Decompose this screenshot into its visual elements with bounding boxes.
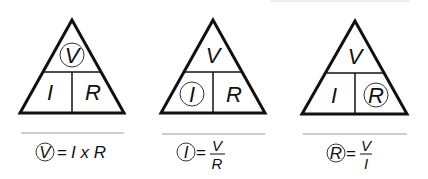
formula-equals: = bbox=[346, 144, 356, 163]
formula-rhs: I x R bbox=[71, 143, 106, 162]
triangle-solve-r: V I R R = V I bbox=[302, 21, 407, 172]
label-top: V bbox=[65, 43, 82, 68]
label-top: V bbox=[348, 44, 365, 69]
formula-denominator: R bbox=[212, 155, 223, 172]
label-top: V bbox=[206, 43, 223, 68]
label-bottom-left: I bbox=[47, 80, 53, 105]
formula-numerator: V bbox=[361, 137, 373, 154]
formula-denominator: I bbox=[364, 155, 368, 172]
triangle-solve-v: V I R V = I x R bbox=[20, 20, 124, 162]
formula-lhs: I bbox=[184, 143, 189, 162]
label-bottom-right: R bbox=[85, 80, 101, 105]
label-bottom-right: R bbox=[368, 83, 384, 108]
formula-numerator: V bbox=[212, 137, 224, 154]
ohms-law-diagram: V I R V = I x R V I R I = V R bbox=[0, 0, 428, 179]
formula-lhs: V bbox=[39, 143, 52, 162]
label-bottom-right: R bbox=[226, 82, 242, 107]
label-bottom-left: I bbox=[189, 82, 195, 107]
formula: I = V R bbox=[177, 137, 225, 172]
formula: R = V I bbox=[327, 137, 373, 172]
triangle-solve-i: V I R I = V R bbox=[161, 20, 265, 172]
formula-equals: = bbox=[57, 143, 67, 162]
label-bottom-left: I bbox=[331, 83, 337, 108]
formula-lhs: R bbox=[330, 144, 342, 163]
formula-equals: = bbox=[196, 143, 206, 162]
formula: V = I x R bbox=[36, 143, 106, 162]
